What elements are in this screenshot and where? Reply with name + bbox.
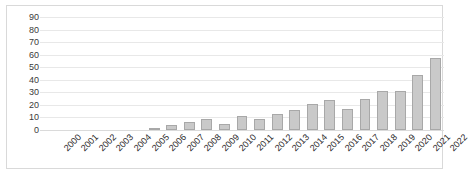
x-tick-label-2006: 2006 [167,132,188,153]
bar-2006 [149,128,160,131]
y-tick-label-40: 40 [13,75,39,84]
x-tick-label-2004: 2004 [132,132,153,153]
x-tick-label-2005: 2005 [149,132,170,153]
bar-2015 [307,104,318,130]
bar-2020 [395,91,406,130]
y-tick-label-50: 50 [13,63,39,72]
x-tick-label-2013: 2013 [290,132,311,153]
x-tick-label-2021: 2021 [431,132,452,153]
y-tick-label-80: 80 [13,25,39,34]
x-tick-label-2000: 2000 [62,132,83,153]
x-tick-label-2014: 2014 [308,132,329,153]
bar-2013 [272,114,283,130]
bar-2018 [360,99,371,130]
x-tick-label-2015: 2015 [325,132,346,153]
bar-2022 [430,58,441,130]
bar-2021 [412,75,423,130]
y-tick-label-20: 20 [13,100,39,109]
x-tick-label-2018: 2018 [378,132,399,153]
bar-2010 [219,124,230,130]
bar-2019 [377,91,388,130]
y-tick-label-90: 90 [13,13,39,22]
x-tick-label-2011: 2011 [255,132,276,153]
y-tick-label-60: 60 [13,50,39,59]
bar-2014 [289,110,300,130]
x-tick-label-2020: 2020 [413,132,434,153]
x-tick-label-2001: 2001 [79,132,100,153]
x-tick-label-2017: 2017 [360,132,381,153]
x-axis-tick-labels: 2000200120022003200420052006200720082009… [40,132,444,174]
y-tick-label-10: 10 [13,113,39,122]
gridline-0 [40,130,444,131]
x-tick-label-2003: 2003 [114,132,135,153]
bar-2012 [254,119,265,130]
x-tick-label-2016: 2016 [343,132,364,153]
y-tick-label-30: 30 [13,88,39,97]
bars-layer [40,17,444,130]
y-tick-label-0: 0 [13,126,39,135]
x-tick-label-2009: 2009 [220,132,241,153]
bar-2016 [324,100,335,130]
y-axis-tick-labels: 0102030405060708090 [13,17,39,130]
bar-2009 [201,119,212,130]
x-tick-label-2002: 2002 [97,132,118,153]
bar-2007 [166,125,177,130]
chart-frame: 0102030405060708090 20002001200220032004… [6,5,443,169]
x-tick-label-2007: 2007 [185,132,206,153]
plot-area [40,17,444,130]
x-tick-label-2022: 2022 [448,132,469,153]
bar-2011 [237,116,248,130]
bar-2017 [342,109,353,130]
x-tick-label-2012: 2012 [272,132,293,153]
x-tick-label-2008: 2008 [202,132,223,153]
x-tick-label-2010: 2010 [237,132,258,153]
y-tick-label-70: 70 [13,38,39,47]
bar-2008 [184,122,195,130]
x-tick-label-2019: 2019 [395,132,416,153]
